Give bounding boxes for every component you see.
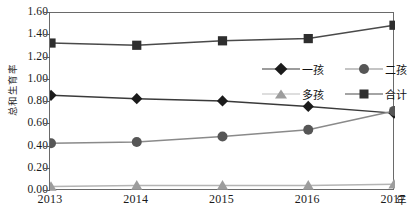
diamond-marker-icon bbox=[262, 63, 300, 75]
x-tick-label: 2013 bbox=[38, 192, 63, 207]
y-tick-mark bbox=[44, 57, 50, 58]
y-tick-mark bbox=[44, 190, 50, 191]
y-tick-mark bbox=[44, 12, 50, 13]
y-tick-mark bbox=[44, 123, 50, 124]
plot-area: 一孩 二孩 多孩 合计 bbox=[49, 12, 394, 190]
series-circle bbox=[50, 106, 395, 148]
y-tick-mark bbox=[44, 101, 50, 102]
series-triangle bbox=[50, 179, 395, 191]
legend-item-multi-child: 多孩 bbox=[262, 86, 341, 102]
legend-item-first-child: 一孩 bbox=[262, 61, 341, 77]
y-axis-tick-labels: 0.000.200.400.600.801.001.201.401.60 bbox=[12, 0, 48, 190]
x-axis-tick-labels: 20132014201520162017 bbox=[49, 192, 394, 210]
legend-item-second-child: 二孩 bbox=[345, 61, 414, 77]
legend-label: 合计 bbox=[385, 86, 408, 102]
x-tick-label: 2016 bbox=[295, 192, 320, 207]
fertility-rate-line-chart: 总和生育率 0.000.200.400.600.801.001.201.401.… bbox=[0, 0, 414, 219]
legend-label: 多孩 bbox=[302, 86, 325, 102]
legend-item-total: 合计 bbox=[345, 86, 414, 102]
legend-label: 二孩 bbox=[385, 61, 408, 77]
series-square bbox=[50, 21, 395, 50]
circle-marker-icon bbox=[345, 63, 383, 75]
chart-legend: 一孩 二孩 多孩 合计 bbox=[262, 57, 414, 105]
y-tick-mark bbox=[44, 34, 50, 35]
triangle-marker-icon bbox=[262, 88, 300, 100]
legend-label: 一孩 bbox=[302, 61, 325, 77]
y-tick-mark bbox=[44, 168, 50, 169]
x-tick-label: 2015 bbox=[209, 192, 234, 207]
square-marker-icon bbox=[345, 88, 383, 100]
x-tick-label: 2014 bbox=[123, 192, 148, 207]
x-axis-unit-label: 年 bbox=[396, 192, 406, 207]
y-tick-mark bbox=[44, 79, 50, 80]
y-tick-mark bbox=[44, 146, 50, 147]
